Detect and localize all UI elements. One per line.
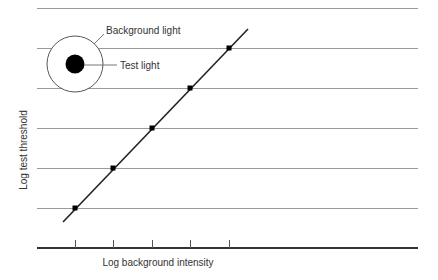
data-point (227, 46, 232, 51)
data-point (188, 86, 193, 91)
stimulus-diagram: Background light Test light (47, 25, 181, 92)
gridlines (37, 9, 418, 209)
data-point (73, 206, 78, 211)
data-point (150, 126, 155, 131)
background-light-label: Background light (106, 25, 181, 36)
test-light-disk (66, 55, 85, 74)
test-light-label: Test light (120, 60, 160, 71)
x-ticks (76, 240, 230, 248)
chart-canvas: Background light Test light Log backgrou… (0, 0, 438, 280)
x-axis-label: Log background intensity (102, 257, 213, 268)
data-point (111, 166, 116, 171)
background-light-leader (94, 34, 104, 44)
y-axis-label: Log test threshold (18, 110, 29, 190)
